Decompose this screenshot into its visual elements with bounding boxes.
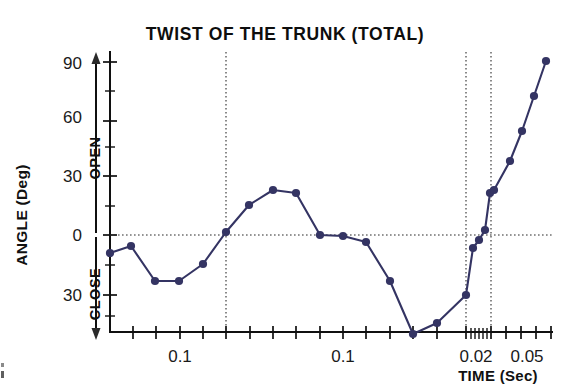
y-tick-label-0: 0	[73, 226, 82, 245]
data-point	[475, 236, 483, 244]
x-tick-label-1: 0.1	[168, 347, 192, 366]
data-point	[490, 186, 498, 194]
y-axis-label: ANGLE (Deg)	[13, 164, 30, 265]
data-point	[481, 226, 489, 234]
reference-gridlines	[110, 52, 552, 332]
data-point	[339, 232, 347, 240]
data-point	[409, 330, 417, 338]
x-tick-label-3: 0.02	[459, 347, 492, 366]
data-point	[199, 260, 207, 268]
data-series-group	[106, 57, 550, 338]
data-point	[175, 277, 183, 285]
chart-figure: TWIST OF THE TRUNK (TOTAL) 90 60 30 0 30…	[0, 0, 561, 391]
direction-label-open: OPEN	[87, 136, 103, 179]
x-tick-label-2: 0.1	[331, 347, 355, 366]
data-point	[433, 319, 441, 327]
series-markers-group	[106, 57, 550, 338]
twist-of-trunk-chart: TWIST OF THE TRUNK (TOTAL) 90 60 30 0 30…	[0, 0, 561, 391]
axis-lines	[110, 52, 552, 332]
y-tick-label-60: 60	[63, 108, 82, 127]
data-point	[245, 201, 253, 209]
data-point	[292, 189, 300, 197]
scan-edge-artifact	[1, 363, 4, 367]
y-tick-label-30: 30	[63, 167, 82, 186]
data-point	[127, 242, 135, 250]
data-point	[362, 238, 370, 246]
data-point	[518, 127, 526, 135]
y-tick-label-90: 90	[63, 54, 82, 73]
x-axis-label: TIME (Sec)	[458, 367, 538, 384]
data-point	[462, 291, 470, 299]
y-tick-label-minus30: 30	[63, 286, 82, 305]
scan-edge-artifact-2	[1, 371, 4, 378]
data-point	[530, 92, 538, 100]
data-point	[106, 249, 114, 257]
data-point	[222, 228, 230, 236]
data-point	[542, 57, 550, 65]
x-tick-label-4: 0.05	[510, 347, 543, 366]
open-arrow-head	[92, 52, 101, 64]
data-point	[151, 277, 159, 285]
chart-title: TWIST OF THE TRUNK (TOTAL)	[146, 24, 424, 44]
data-point	[269, 186, 277, 194]
data-point	[386, 277, 394, 285]
series-line-twist	[110, 61, 546, 334]
data-point	[316, 231, 324, 239]
data-point	[506, 157, 514, 165]
close-arrow-head	[92, 328, 101, 340]
data-point	[469, 244, 477, 252]
direction-label-close: CLOSE	[87, 268, 103, 320]
